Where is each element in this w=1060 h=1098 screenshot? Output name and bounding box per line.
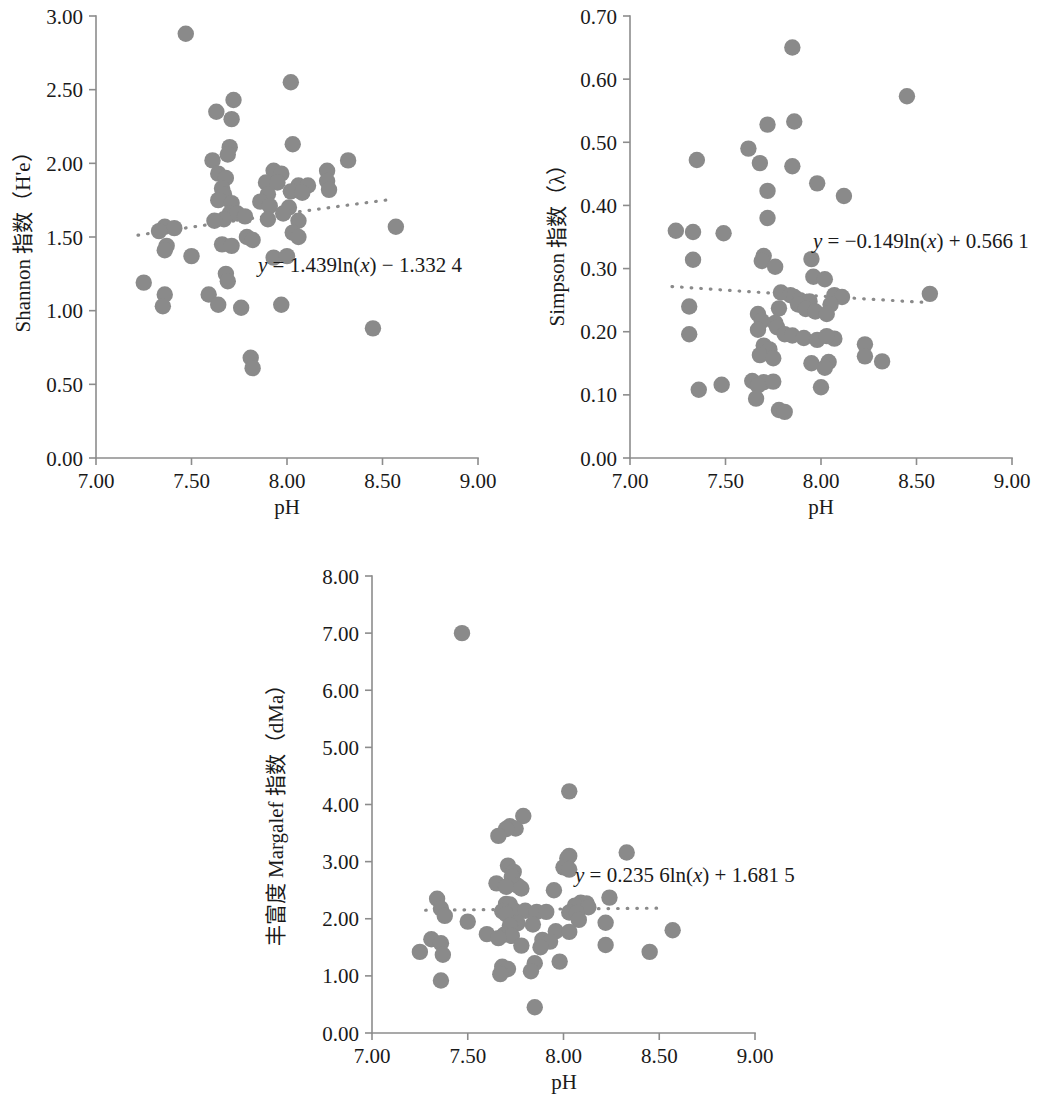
data-point <box>922 286 938 302</box>
data-point <box>752 155 768 171</box>
data-point <box>244 360 260 376</box>
data-point <box>668 222 684 238</box>
margalef-y-tick-label: 6.00 <box>322 679 359 703</box>
data-point <box>750 322 766 338</box>
data-point <box>513 937 529 953</box>
data-point <box>689 152 705 168</box>
margalef-y-tick-label: 4.00 <box>322 793 359 817</box>
data-point <box>157 242 173 258</box>
data-point <box>365 320 381 336</box>
data-point <box>748 390 764 406</box>
data-point <box>784 158 800 174</box>
simpson-svg: 0.000.100.200.300.400.500.600.707.007.50… <box>530 0 1060 530</box>
chart-panel-shannon: 0.000.501.001.502.002.503.007.007.508.00… <box>0 0 520 530</box>
simpson-regression-equation: y = −0.149ln(x) + 0.566 1 <box>811 229 1029 253</box>
simpson-y-tick-label: 0.30 <box>580 257 617 281</box>
data-point <box>597 915 613 931</box>
data-point <box>685 224 701 240</box>
data-point <box>817 271 833 287</box>
data-point <box>664 922 680 938</box>
margalef-x-axis-title: pH <box>551 1070 577 1094</box>
data-point <box>759 210 775 226</box>
data-point <box>527 999 543 1015</box>
data-point <box>178 25 194 41</box>
simpson-x-tick-label: 8.00 <box>803 469 840 493</box>
data-point <box>233 300 249 316</box>
data-point <box>813 379 829 395</box>
margalef-y-tick-label: 1.00 <box>322 964 359 988</box>
data-point <box>210 297 226 313</box>
margalef-x-tick-label: 9.00 <box>737 1044 774 1068</box>
shannon-y-tick-label: 1.50 <box>46 226 83 250</box>
data-point <box>809 175 825 191</box>
data-point <box>619 844 635 860</box>
simpson-x-axis-title: pH <box>808 495 834 519</box>
margalef-data-points <box>412 625 681 1016</box>
data-point <box>601 889 617 905</box>
data-point <box>803 251 819 267</box>
margalef-y-tick-label: 7.00 <box>322 622 359 646</box>
data-point <box>765 373 781 389</box>
data-point <box>685 252 701 268</box>
data-point <box>225 92 241 108</box>
data-point <box>874 353 890 369</box>
data-point <box>498 879 514 895</box>
margalef-chart-group: 0.001.002.003.004.005.006.007.008.007.00… <box>264 565 795 1095</box>
shannon-x-tick-label: 8.00 <box>269 469 306 493</box>
data-point <box>899 88 915 104</box>
data-point <box>784 39 800 55</box>
figure-root: 0.000.501.001.502.002.503.007.007.508.00… <box>0 0 1060 1098</box>
data-point <box>388 218 404 234</box>
data-point <box>340 152 356 168</box>
data-point <box>759 116 775 132</box>
data-point <box>532 939 548 955</box>
data-point <box>223 111 239 127</box>
data-point <box>294 185 310 201</box>
data-point <box>597 937 613 953</box>
margalef-x-tick-label: 7.00 <box>354 1044 391 1068</box>
data-point <box>765 350 781 366</box>
shannon-y-tick-label: 2.50 <box>46 78 83 102</box>
data-point <box>151 223 167 239</box>
shannon-y-tick-label: 0.50 <box>46 373 83 397</box>
shannon-svg: 0.000.501.001.502.002.503.007.007.508.00… <box>0 0 520 530</box>
data-point <box>492 966 508 982</box>
data-point <box>819 328 835 344</box>
data-point <box>412 944 428 960</box>
margalef-x-tick-label: 8.00 <box>545 1044 582 1068</box>
data-point <box>437 908 453 924</box>
simpson-y-tick-label: 0.70 <box>580 5 617 29</box>
data-point <box>273 297 289 313</box>
simpson-x-tick-label: 7.50 <box>707 469 744 493</box>
simpson-x-tick-label: 8.50 <box>898 469 935 493</box>
data-point <box>136 274 152 290</box>
simpson-y-tick-label: 0.60 <box>580 68 617 92</box>
margalef-y-tick-label: 3.00 <box>322 850 359 874</box>
shannon-y-axis-title: Shannon 指数（H'e） <box>11 141 35 332</box>
simpson-y-axis-title: Simpson 指数（λ） <box>545 154 569 327</box>
data-point <box>561 924 577 940</box>
simpson-y-tick-label: 0.50 <box>580 131 617 155</box>
data-point <box>551 953 567 969</box>
data-point <box>260 211 276 227</box>
data-point <box>777 404 793 420</box>
shannon-x-axis-title: pH <box>274 495 300 519</box>
data-point <box>523 963 539 979</box>
simpson-y-tick-label: 0.10 <box>580 383 617 407</box>
data-point <box>490 930 506 946</box>
simpson-x-tick-label: 9.00 <box>994 469 1031 493</box>
data-point <box>713 377 729 393</box>
shannon-y-tick-label: 0.00 <box>46 447 83 471</box>
margalef-y-tick-label: 2.00 <box>322 907 359 931</box>
data-point <box>525 916 541 932</box>
data-point <box>220 146 236 162</box>
margalef-y-tick-label: 0.00 <box>322 1022 359 1046</box>
shannon-regression-equation: y = 1.439ln(x) − 1.332 4 <box>256 253 462 277</box>
data-point <box>435 947 451 963</box>
chart-panel-margalef: 0.001.002.003.004.005.006.007.008.007.00… <box>245 545 845 1098</box>
shannon-x-tick-label: 7.00 <box>78 469 115 493</box>
simpson-chart-group: 0.000.100.200.300.400.500.600.707.007.50… <box>545 5 1030 520</box>
margalef-y-tick-label: 8.00 <box>322 565 359 589</box>
shannon-y-tick-label: 2.00 <box>46 152 83 176</box>
shannon-x-tick-label: 8.50 <box>364 469 401 493</box>
